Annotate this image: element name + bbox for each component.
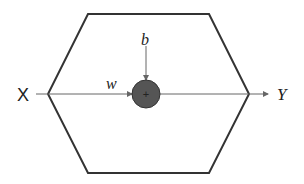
input-label: X [17, 85, 29, 105]
weight-label: w [106, 75, 117, 92]
bias-label: b [141, 31, 149, 48]
plus-icon: + [143, 88, 149, 100]
neuron-diagram: + X w b Y Y = wX + b [0, 0, 304, 184]
output-label: Y [277, 85, 288, 104]
equation: Y = wX + b [109, 0, 185, 3]
